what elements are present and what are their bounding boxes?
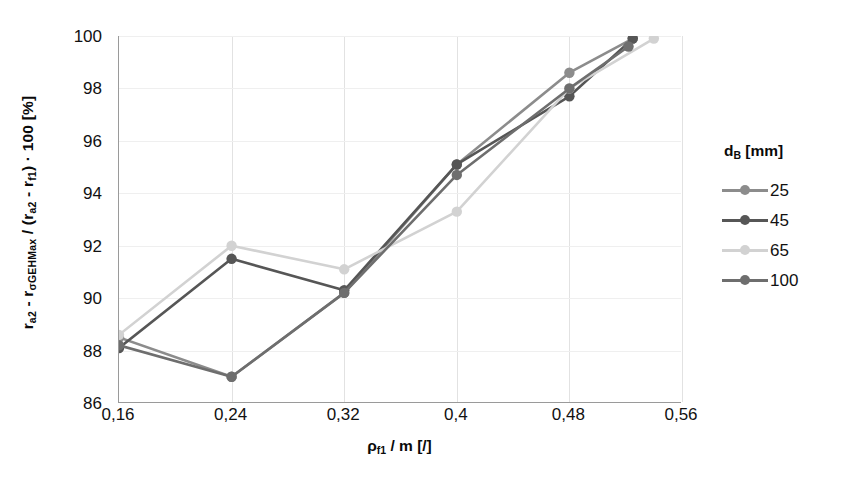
legend-items: 254565100 — [722, 175, 842, 295]
y-axis-title-s3: a2 — [26, 201, 38, 213]
x-tick-label: 0,24 — [196, 406, 266, 423]
x-axis-tick-labels: 0,160,240,320,40,480,56 — [118, 406, 681, 432]
data-point — [649, 36, 659, 44]
y-tick-label: 92 — [56, 238, 102, 255]
data-point — [452, 170, 462, 180]
data-point — [339, 264, 349, 274]
series-45 — [119, 36, 638, 353]
legend-item-45[interactable]: 45 — [722, 205, 842, 235]
data-point — [564, 68, 574, 78]
legend-swatch-icon — [722, 213, 768, 227]
legend-title: dB [mm] — [724, 142, 842, 161]
data-point — [452, 159, 462, 169]
x-tick-label: 0,48 — [533, 406, 603, 423]
legend-item-25[interactable]: 25 — [722, 175, 842, 205]
series-25 — [119, 36, 638, 382]
legend-item-65[interactable]: 65 — [722, 235, 842, 265]
data-point — [623, 41, 633, 51]
data-point — [226, 241, 236, 251]
legend-item-label: 65 — [770, 242, 789, 259]
y-axis-title-p4: - r — [19, 181, 36, 202]
legend-title-p2: [mm] — [741, 142, 783, 159]
data-point — [226, 372, 236, 382]
legend-marker-dot — [740, 245, 750, 255]
series-100 — [119, 41, 634, 382]
legend-marker-dot — [740, 215, 750, 225]
x-tick-label: 0,4 — [421, 406, 491, 423]
y-axis-title-p5: ) · 100 [%] — [19, 96, 36, 171]
legend-swatch-icon — [722, 183, 768, 197]
y-axis-title-s1: a2 — [26, 311, 38, 323]
y-tick-label: 100 — [56, 28, 102, 45]
y-tick-label: 98 — [56, 80, 102, 97]
x-tick-label: 0,16 — [83, 406, 153, 423]
x-tick-label: 0,56 — [646, 406, 716, 423]
data-point — [339, 288, 349, 298]
legend-item-label: 25 — [770, 182, 789, 199]
legend-swatch-icon — [722, 273, 768, 287]
x-axis-title: ρf1 / m [/] — [118, 437, 681, 456]
y-axis-title-s2: σGEHMax — [26, 239, 38, 291]
series-canvas — [119, 36, 682, 403]
x-tick-label: 0,32 — [308, 406, 378, 423]
series-line — [119, 46, 629, 376]
y-tick-label: 90 — [56, 290, 102, 307]
legend-title-s1: B — [733, 149, 741, 161]
legend-swatch-icon — [722, 243, 768, 257]
y-tick-label: 88 — [56, 343, 102, 360]
data-point — [452, 206, 462, 216]
legend-item-label: 45 — [770, 212, 789, 229]
y-axis-title-p1: r — [19, 323, 36, 329]
x-axis-title-p2: / m [/] — [386, 437, 432, 454]
y-tick-label: 96 — [56, 133, 102, 150]
vertical-gridline — [682, 36, 683, 402]
y-axis-title: ra2 - rσGEHMax / (ra2 - rf1) · 100 [%] — [19, 13, 38, 413]
y-axis-title-p2: - r — [19, 290, 36, 311]
y-axis-title-p3: / (r — [19, 214, 36, 239]
plot-area — [118, 36, 681, 403]
series-line — [119, 39, 654, 335]
legend-item-label: 100 — [770, 272, 798, 289]
series-line — [119, 39, 633, 377]
legend-item-100[interactable]: 100 — [722, 265, 842, 295]
data-point — [564, 83, 574, 93]
legend-marker-dot — [740, 185, 750, 195]
y-axis-title-s4: f1 — [26, 171, 38, 181]
legend-marker-dot — [740, 275, 750, 285]
x-axis-title-s1: f1 — [377, 444, 386, 456]
legend: dB [mm] 254565100 — [722, 142, 842, 295]
chart-figure: ra2 - rσGEHMax / (ra2 - rf1) · 100 [%] 8… — [0, 0, 847, 484]
y-tick-label: 94 — [56, 185, 102, 202]
data-point — [226, 254, 236, 264]
x-axis-title-p1: ρ — [367, 437, 377, 454]
